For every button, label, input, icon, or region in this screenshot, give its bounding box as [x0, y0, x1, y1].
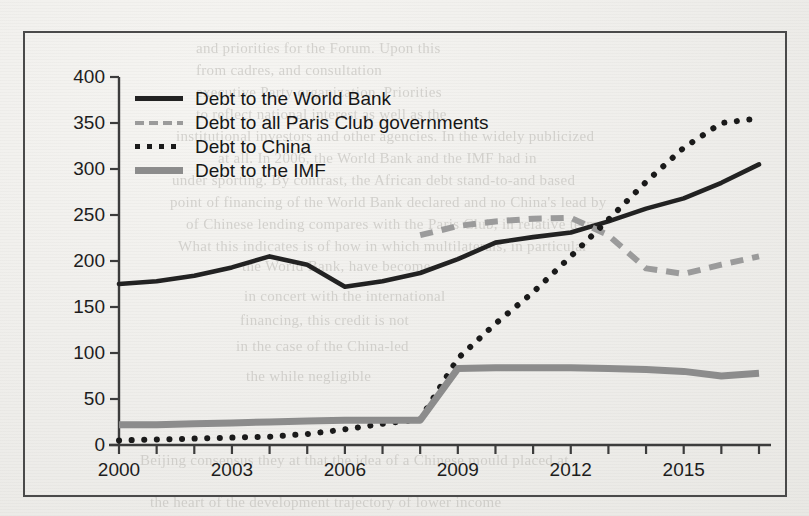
chart-legend: Debt to the World BankDebt to all Paris …: [133, 86, 489, 182]
legend-label: Debt to China: [195, 137, 311, 156]
x-axis-tick-label: 2003: [211, 459, 253, 481]
x-axis-tick-label: 2009: [437, 459, 479, 481]
y-axis-tick-label: 150: [53, 296, 105, 318]
y-axis-tick-label: 0: [53, 434, 105, 456]
chart-figure-frame: 400350300250200150100500 200020032006200…: [23, 31, 787, 497]
legend-item-paris-club: Debt to all Paris Club governments: [133, 110, 489, 134]
legend-item-imf: Debt to the IMF: [133, 158, 489, 182]
y-axis-tick-label: 400: [53, 66, 105, 88]
y-axis-tick-label: 250: [53, 204, 105, 226]
legend-swatch-paris-club-icon: [133, 113, 185, 131]
legend-swatch-china-icon: [133, 137, 185, 155]
series-line-imf: [119, 368, 759, 425]
y-axis-tick-label: 300: [53, 158, 105, 180]
series-line-world-bank: [119, 164, 759, 286]
legend-item-world-bank: Debt to the World Bank: [133, 86, 489, 110]
x-axis-tick-label: 2012: [550, 459, 592, 481]
legend-item-china: Debt to China: [133, 134, 489, 158]
legend-swatch-world-bank-icon: [133, 89, 185, 107]
y-axis-tick-label: 100: [53, 342, 105, 364]
x-axis-tick-label: 2015: [663, 459, 705, 481]
y-axis-tick-label: 50: [53, 388, 105, 410]
legend-swatch-imf-icon: [133, 161, 185, 179]
y-axis-tick-label: 200: [53, 250, 105, 272]
legend-label: Debt to the IMF: [195, 161, 326, 180]
legend-label: Debt to the World Bank: [195, 89, 391, 108]
x-axis-tick-label: 2000: [98, 459, 140, 481]
legend-label: Debt to all Paris Club governments: [195, 113, 489, 132]
x-axis-tick-label: 2006: [324, 459, 366, 481]
y-axis-tick-label: 350: [53, 112, 105, 134]
